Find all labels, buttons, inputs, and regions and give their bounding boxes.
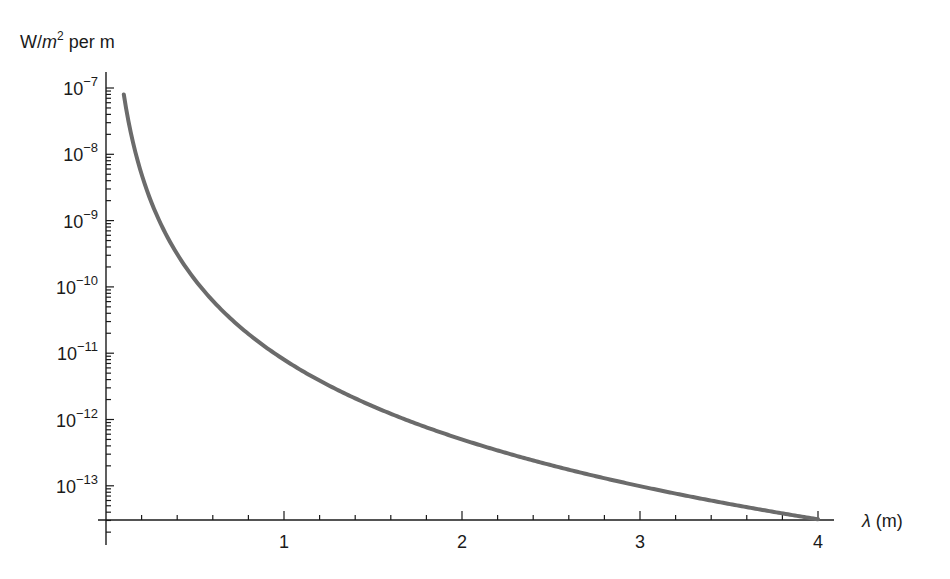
svg-text:W/m2 per m: W/m2 per m: [20, 29, 115, 52]
y-axis: 10−710−810−910−1010−1110−1210−13: [56, 72, 114, 545]
y-tick-label: 10−8: [63, 140, 98, 165]
y-tick-label: 10−9: [63, 207, 98, 232]
y-tick-label: 10−7: [63, 74, 98, 99]
x-tick-label: 2: [457, 532, 467, 552]
y-tick-label: 10−10: [56, 273, 98, 298]
x-axis: 1234: [98, 511, 834, 552]
data-curve: [124, 94, 818, 519]
y-axis-title: W/m2 per m: [20, 29, 115, 52]
y-tick-label: 10−12: [56, 406, 98, 431]
x-tick-label: 4: [813, 532, 823, 552]
chart: W/m2 per m 10−710−810−910−1010−1110−1210…: [0, 0, 950, 579]
x-tick-label: 1: [279, 532, 289, 552]
y-tick-label: 10−11: [57, 339, 98, 364]
y-tick-label: 10−13: [56, 472, 98, 497]
x-axis-title: λ (m): [861, 511, 903, 531]
x-tick-label: 3: [635, 532, 645, 552]
